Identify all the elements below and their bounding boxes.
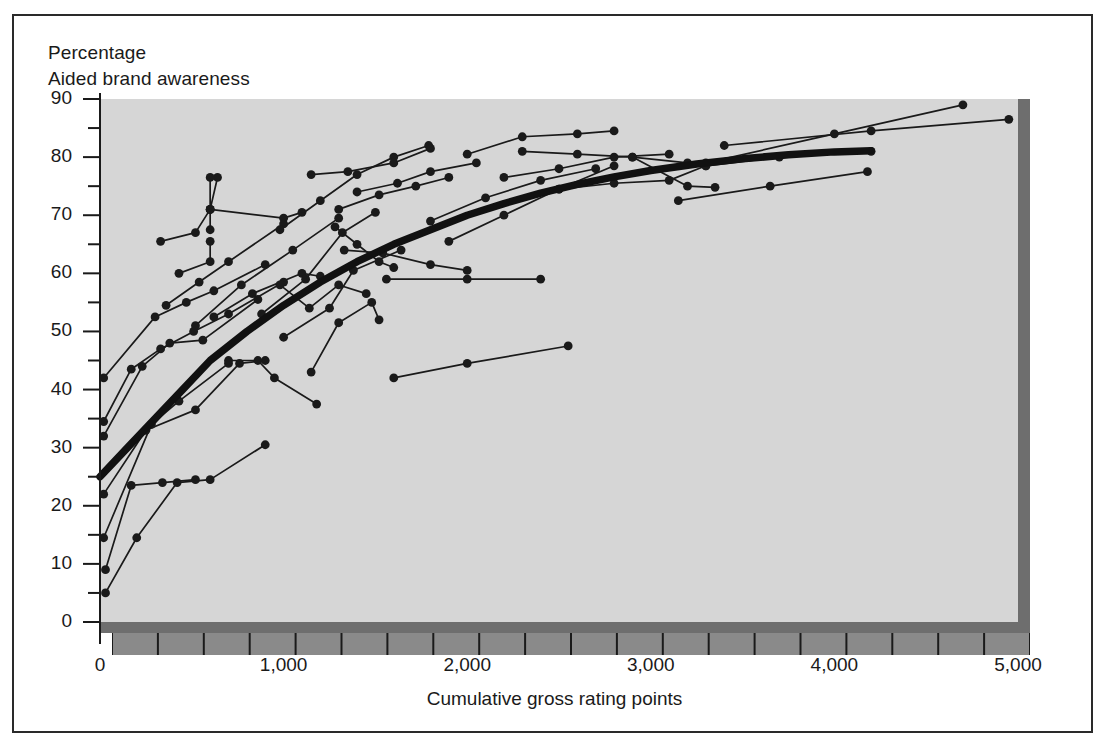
x-axis-band <box>112 633 1030 655</box>
data-point-marker <box>389 374 398 383</box>
data-point-marker <box>472 159 481 168</box>
data-point-marker <box>397 246 406 255</box>
data-point-marker <box>367 298 376 307</box>
axis-subtitle-percentage: Percentage <box>48 42 146 64</box>
data-point-marker <box>182 298 191 307</box>
data-point-marker <box>573 129 582 138</box>
series-line <box>467 131 614 154</box>
series-line <box>394 346 568 378</box>
data-point-marker <box>206 237 215 246</box>
data-point-marker <box>99 490 108 499</box>
data-point-marker <box>237 281 246 290</box>
data-point-marker <box>375 315 384 324</box>
data-point-marker <box>209 286 218 295</box>
data-point-marker <box>500 211 509 220</box>
data-point-marker <box>132 533 141 542</box>
data-point-marker <box>312 400 321 409</box>
y-tick-label: 10 <box>28 552 72 574</box>
y-tick-label: 20 <box>28 494 72 516</box>
data-point-marker <box>711 183 720 192</box>
series-line <box>104 361 266 495</box>
data-point-marker <box>959 100 968 109</box>
data-point-marker <box>253 356 262 365</box>
data-point-marker <box>156 237 165 246</box>
data-point-marker <box>158 478 167 487</box>
y-tick-label: 40 <box>28 378 72 400</box>
data-point-marker <box>151 313 160 322</box>
data-point-marker <box>720 141 729 150</box>
x-tick-label: 2,000 <box>422 654 512 676</box>
data-point-marker <box>191 475 200 484</box>
data-point-marker <box>191 405 200 414</box>
data-point-marker <box>500 173 509 182</box>
data-point-marker <box>411 182 420 191</box>
data-point-marker <box>195 278 204 287</box>
x-tick-label: 0 <box>55 654 145 676</box>
data-point-marker <box>463 150 472 159</box>
data-point-marker <box>127 365 136 374</box>
data-point-marker <box>301 275 310 284</box>
series-line <box>106 480 196 570</box>
data-point-marker <box>175 269 184 278</box>
data-point-marker <box>353 170 362 179</box>
series-line <box>724 119 1009 145</box>
data-point-marker <box>334 205 343 214</box>
data-point-marker <box>382 275 391 284</box>
data-point-marker <box>198 336 207 345</box>
figure-root: Percentage Aided brand awareness 0102030… <box>0 0 1109 751</box>
x-axis-minor-ticks <box>112 633 1030 655</box>
data-point-marker <box>206 205 215 214</box>
data-point-marker <box>610 127 619 136</box>
data-point-marker <box>224 310 233 319</box>
data-point-marker <box>674 196 683 205</box>
data-point-marker <box>325 304 334 313</box>
data-point-marker <box>393 179 402 188</box>
x-tick-label: 3,000 <box>606 654 696 676</box>
data-point-marker <box>276 225 285 234</box>
data-point-marker <box>444 237 453 246</box>
data-point-marker <box>426 217 435 226</box>
data-point-marker <box>353 240 362 249</box>
data-point-marker <box>610 161 619 170</box>
data-point-marker <box>371 208 380 217</box>
x-axis-title: Cumulative gross rating points <box>0 688 1109 710</box>
data-point-marker <box>99 417 108 426</box>
data-point-marker <box>375 257 384 266</box>
y-tick-label: 0 <box>28 610 72 632</box>
data-point-marker <box>156 344 165 353</box>
plot-series-layer <box>100 99 1030 633</box>
series-line <box>210 209 302 218</box>
data-point-marker <box>1004 115 1013 124</box>
data-point-marker <box>463 275 472 284</box>
data-point-marker <box>224 356 233 365</box>
data-point-marker <box>555 164 564 173</box>
data-point-marker <box>334 318 343 327</box>
data-point-marker <box>426 260 435 269</box>
data-point-marker <box>270 374 279 383</box>
data-point-marker <box>99 533 108 542</box>
series-line <box>311 148 430 174</box>
data-point-marker <box>127 481 136 490</box>
data-point-marker <box>99 374 108 383</box>
data-point-marker <box>316 196 325 205</box>
data-point-marker <box>334 214 343 223</box>
data-point-marker <box>362 289 371 298</box>
data-point-marker <box>206 475 215 484</box>
data-point-marker <box>867 127 876 136</box>
data-point-marker <box>307 170 316 179</box>
data-point-marker <box>375 190 384 199</box>
data-point-marker <box>536 275 545 284</box>
data-point-marker <box>191 321 200 330</box>
data-point-marker <box>340 246 349 255</box>
chart-title: Aided brand awareness <box>48 68 250 90</box>
data-point-marker <box>276 281 285 290</box>
data-point-marker <box>162 301 171 310</box>
data-point-marker <box>206 173 215 182</box>
data-point-marker <box>343 167 352 176</box>
data-point-marker <box>101 565 110 574</box>
x-tick-label: 4,000 <box>789 654 879 676</box>
data-point-marker <box>564 342 573 351</box>
data-point-marker <box>191 228 200 237</box>
data-point-marker <box>331 222 340 231</box>
y-tick-label: 70 <box>28 203 72 225</box>
